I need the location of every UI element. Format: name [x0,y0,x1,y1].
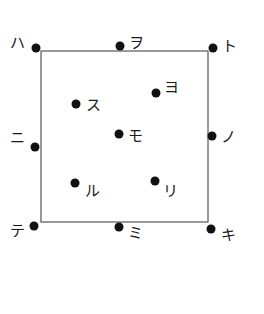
point-dot [116,42,125,51]
point-label: ス [86,96,101,114]
point-dot [209,44,218,53]
point-dot [208,132,217,141]
point-6: ニ [10,129,40,152]
point-dot [115,223,124,232]
point-label: ヨ [164,78,179,96]
point-dot [151,177,160,186]
point-dot [152,89,161,98]
point-label: モ [128,127,143,145]
point-label: ノ [221,128,236,146]
point-dot [72,100,81,109]
point-9: ル [71,179,101,201]
point-dot [71,179,80,188]
point-13: キ [207,225,237,245]
point-dot [115,130,124,139]
point-4: ヨ [152,78,180,98]
point-2: ヲ [116,34,145,52]
point-dot [207,225,216,234]
point-label: ニ [10,129,25,147]
point-label: ヲ [129,34,144,52]
point-3: ト [209,37,238,55]
point-5: ス [72,96,102,114]
point-label: ル [85,182,100,200]
point-8: ノ [208,128,237,146]
point-dot [32,44,41,53]
point-label: キ [221,226,236,244]
point-dot [31,143,40,152]
point-10: リ [151,177,179,201]
point-label: ミ [128,224,143,242]
point-label: ハ [10,34,25,52]
point-label: ト [222,37,237,55]
point-dot [30,222,39,231]
point-11: テ [10,222,39,241]
labeled-points: ハヲトヨスニモノルリテミキ [10,34,237,244]
point-label: テ [10,222,25,240]
point-diagram: ハヲトヨスニモノルリテミキ [0,0,264,314]
square-outline [41,51,208,222]
point-label: リ [163,182,178,200]
point-12: ミ [115,223,144,243]
point-1: ハ [10,34,41,53]
point-7: モ [115,127,144,145]
